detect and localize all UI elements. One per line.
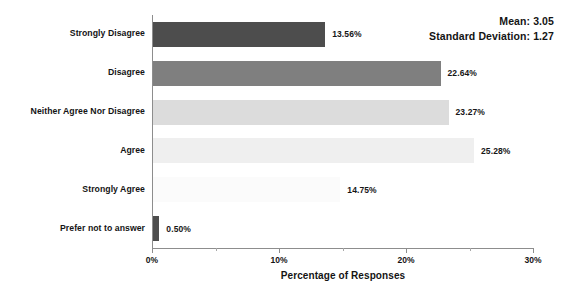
bar-row: 25.28% xyxy=(153,132,534,171)
category-label: Prefer not to answer xyxy=(0,223,145,233)
bar-chart: Mean: 3.05 Standard Deviation: 1.27 Stro… xyxy=(0,0,570,294)
x-axis-tick-label: 30% xyxy=(524,255,541,265)
bar-value-label: 23.27% xyxy=(456,107,485,117)
x-axis-minor-tick xyxy=(470,248,471,251)
bar-value-label: 14.75% xyxy=(347,185,376,195)
x-axis-title: Percentage of Responses xyxy=(152,270,534,281)
bar-row: 13.56% xyxy=(153,15,534,54)
bar-row: 22.64% xyxy=(153,54,534,93)
bar[interactable] xyxy=(153,61,441,86)
bar-row: 0.50% xyxy=(153,209,534,248)
category-label: Strongly Agree xyxy=(0,184,145,194)
bar-value-label: 0.50% xyxy=(166,224,191,234)
category-label: Neither Agree Nor Disagree xyxy=(0,106,145,116)
category-label: Agree xyxy=(0,145,145,155)
x-axis-tick xyxy=(279,248,280,253)
bar-value-label: 25.28% xyxy=(481,146,510,156)
bar[interactable] xyxy=(153,177,340,202)
x-axis-tick-label: 10% xyxy=(270,255,287,265)
category-axis-labels: Strongly DisagreeDisagreeNeither Agree N… xyxy=(0,15,145,248)
bar[interactable] xyxy=(153,100,449,125)
bar-value-label: 13.56% xyxy=(332,29,361,39)
bars-layer: 13.56%22.64%23.27%25.28%14.75%0.50% xyxy=(153,15,534,248)
bar-row: 14.75% xyxy=(153,170,534,209)
bar[interactable] xyxy=(153,22,325,47)
x-axis-tick-label: 20% xyxy=(397,255,414,265)
bar[interactable] xyxy=(153,216,159,241)
plot-area: 13.56%22.64%23.27%25.28%14.75%0.50% xyxy=(152,15,534,248)
x-axis-minor-tick xyxy=(216,248,217,251)
x-axis-tick-label: 0% xyxy=(146,255,158,265)
bar-row: 23.27% xyxy=(153,93,534,132)
category-label: Disagree xyxy=(0,67,145,77)
x-axis-tick xyxy=(406,248,407,253)
x-axis-tick xyxy=(533,248,534,253)
x-axis-minor-tick xyxy=(343,248,344,251)
category-label: Strongly Disagree xyxy=(0,28,145,38)
x-axis-tick xyxy=(152,248,153,253)
bar-value-label: 22.64% xyxy=(448,68,477,78)
bar[interactable] xyxy=(153,138,474,163)
